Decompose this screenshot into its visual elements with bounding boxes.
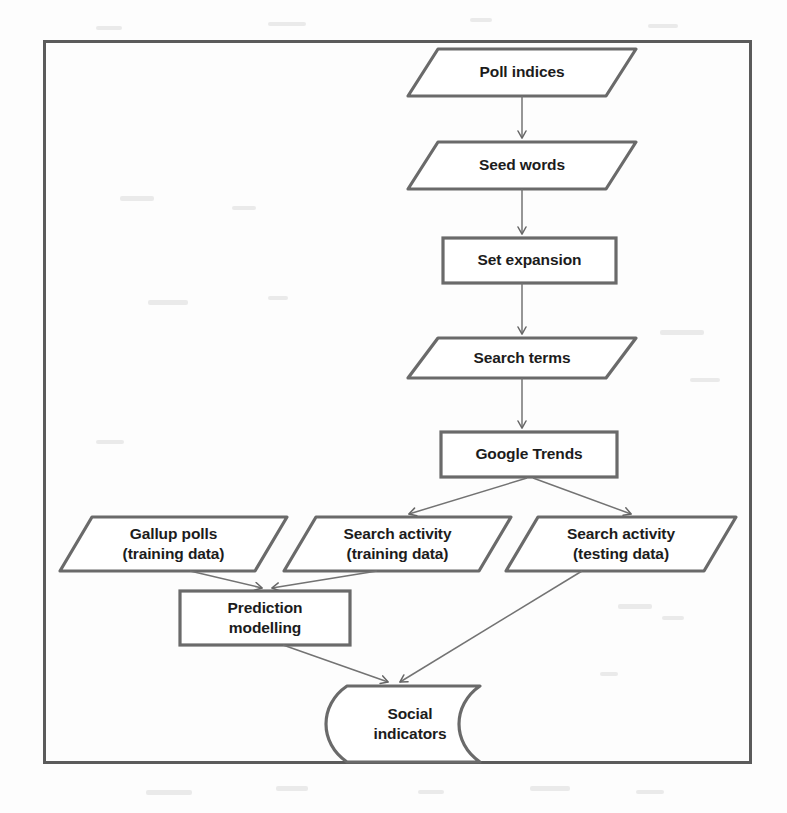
- node-search-terms: [408, 338, 636, 378]
- edge-google-trends-to-search-activity-training: [409, 478, 527, 514]
- node-search-activity-training: [284, 517, 511, 571]
- flowchart-page: Poll indices Seed words Set expansion Se…: [0, 0, 787, 813]
- node-search-activity-testing: [506, 517, 736, 571]
- node-prediction-modelling: [180, 591, 350, 645]
- edge-search-activity-training-to-prediction-modelling: [272, 571, 377, 588]
- node-gallup-polls: [60, 517, 287, 571]
- node-social-indicators: [326, 686, 480, 762]
- edge-google-trends-to-search-activity-testing: [533, 478, 631, 514]
- edge-gallup-polls-to-prediction-modelling: [190, 571, 262, 588]
- edge-prediction-modelling-to-social-indicators: [283, 645, 388, 682]
- edge-search-activity-testing-to-social-indicators: [400, 571, 582, 682]
- flowchart-canvas: [0, 0, 787, 813]
- node-poll-indices: [408, 49, 636, 96]
- node-set-expansion: [443, 238, 616, 283]
- node-seed-words: [408, 142, 636, 189]
- node-google-trends: [441, 432, 617, 477]
- outer-border: [45, 42, 751, 763]
